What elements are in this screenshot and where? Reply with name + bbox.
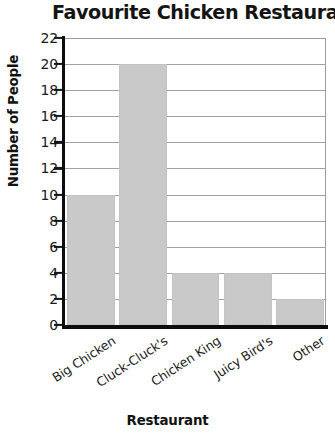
x-tick-label: Other: [290, 333, 328, 365]
y-tick-mark: [54, 63, 62, 65]
y-tick-mark: [54, 37, 62, 39]
y-tick-mark: [54, 141, 62, 143]
y-axis-title: Number of People: [3, 36, 25, 206]
bar[interactable]: [67, 195, 115, 325]
gridline: [65, 168, 326, 169]
gridline: [65, 116, 326, 117]
x-axis-title: Restaurant: [0, 410, 335, 432]
y-tick-mark: [54, 89, 62, 91]
y-tick-mark: [54, 324, 62, 326]
bar-chart: Favourite Chicken Restaurant Number of P…: [0, 0, 335, 434]
bar[interactable]: [172, 273, 220, 325]
gridline: [65, 142, 326, 143]
y-tick-mark: [54, 193, 62, 195]
y-axis-line: [62, 36, 65, 328]
y-tick-mark: [54, 298, 62, 300]
gridline: [65, 38, 326, 39]
y-tick-mark: [54, 220, 62, 222]
bar[interactable]: [119, 64, 167, 325]
y-tick-mark: [54, 167, 62, 169]
bar[interactable]: [224, 273, 272, 325]
gridline: [65, 64, 326, 65]
gridline: [65, 90, 326, 91]
y-axis-title-wrap: Number of People: [3, 36, 25, 206]
y-tick-mark: [54, 115, 62, 117]
bar[interactable]: [276, 299, 324, 325]
y-tick-mark: [54, 246, 62, 248]
y-tick-mark: [54, 272, 62, 274]
plot-area: [65, 38, 326, 325]
x-axis-line: [62, 325, 328, 328]
chart-title: Favourite Chicken Restaurant: [52, 1, 335, 25]
